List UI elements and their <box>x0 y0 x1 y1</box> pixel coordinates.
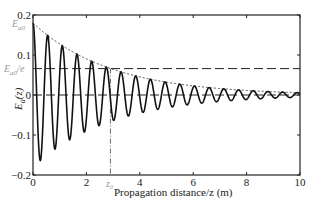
y-tick-label: 0.2 <box>17 9 31 21</box>
y-tick-label: −0.1 <box>11 129 31 141</box>
x-tick-label: 0 <box>30 176 36 188</box>
oscillation-curve <box>33 23 300 161</box>
x-tick-label: 10 <box>295 176 307 188</box>
decay-oscillation-chart: 0246810−0.2−0.100.10.2 Ea0 Ea0/e Ea(z) z… <box>0 0 313 207</box>
x-tick-label: 8 <box>244 176 250 188</box>
curves <box>33 23 300 161</box>
y-tick-label: 0 <box>26 89 32 101</box>
z0-annotation: z0 <box>105 178 113 190</box>
y-tick-label: −0.2 <box>11 169 31 181</box>
x-axis-label: Propagation distance/z (m) <box>114 186 233 199</box>
x-tick-label: 2 <box>84 176 90 188</box>
y-tick-label: 0.1 <box>17 49 31 61</box>
ea0-over-e-annotation: Ea0/e <box>3 63 25 77</box>
